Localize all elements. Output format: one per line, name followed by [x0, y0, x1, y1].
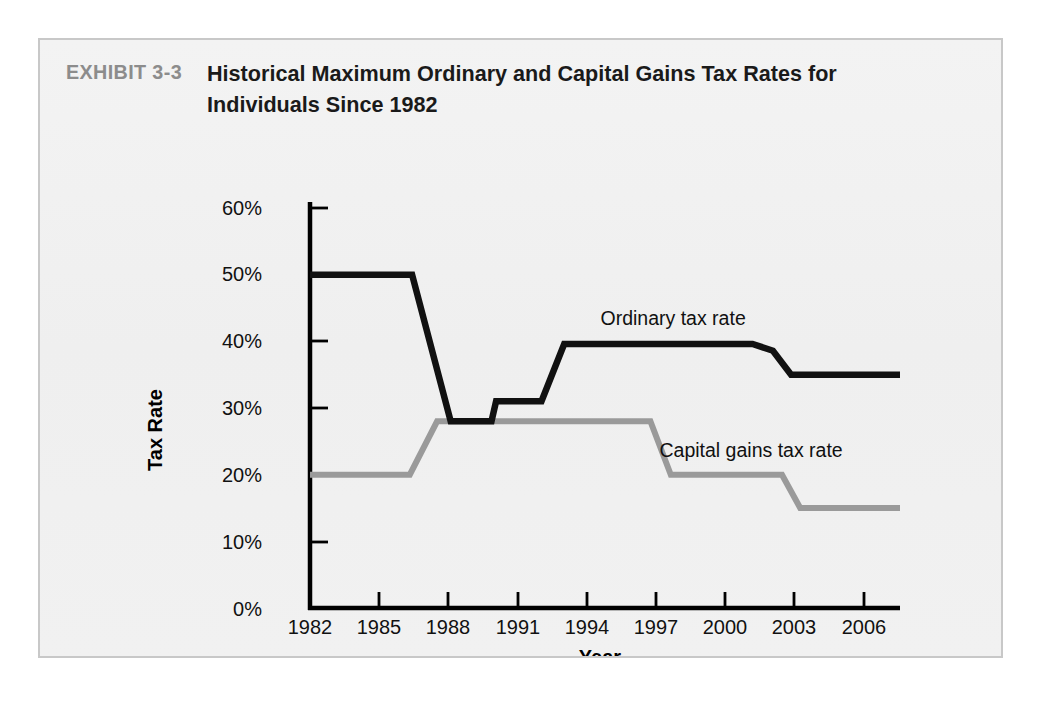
y-tick-label-40: 40% — [222, 330, 262, 352]
x-tick-label-1994: 1994 — [565, 616, 610, 638]
x-axis-ticks — [310, 592, 864, 608]
capital-gains-tax-rate-label: Capital gains tax rate — [660, 439, 843, 461]
y-tick-label-60: 60% — [222, 197, 262, 219]
chart-container: 60% 50% 40% 30% 20% 10% 0% Tax Rate — [40, 140, 1005, 656]
exhibit-frame: EXHIBIT 3-3 Historical Maximum Ordinary … — [38, 38, 1003, 658]
y-tick-label-20: 20% — [222, 464, 262, 486]
y-axis-tick-labels: 60% 50% 40% 30% 20% 10% 0% — [222, 197, 262, 620]
ordinary-tax-rate-line — [310, 275, 900, 422]
x-axis-tick-labels: 1982 1985 1988 1991 1994 1997 2000 2003 … — [288, 616, 887, 638]
y-axis-title: Tax Rate — [144, 389, 166, 471]
y-axis-ticks — [310, 208, 328, 542]
y-tick-label-10: 10% — [222, 531, 262, 553]
y-tick-label-0: 0% — [233, 598, 262, 620]
x-tick-label-1985: 1985 — [357, 616, 402, 638]
x-tick-label-2003: 2003 — [772, 616, 817, 638]
x-tick-label-1991: 1991 — [496, 616, 541, 638]
exhibit-header: EXHIBIT 3-3 Historical Maximum Ordinary … — [66, 58, 971, 120]
x-tick-label-1988: 1988 — [426, 616, 471, 638]
axis-lines — [308, 202, 900, 610]
exhibit-number: EXHIBIT 3-3 — [66, 58, 182, 84]
tax-rate-line-chart: 60% 50% 40% 30% 20% 10% 0% Tax Rate — [40, 140, 1005, 656]
x-axis-title: Year — [579, 646, 621, 656]
x-tick-label-1982: 1982 — [288, 616, 333, 638]
x-tick-label-2000: 2000 — [703, 616, 748, 638]
capital-gains-tax-rate-line — [310, 421, 900, 508]
exhibit-page: EXHIBIT 3-3 Historical Maximum Ordinary … — [0, 0, 1045, 703]
y-tick-label-50: 50% — [222, 263, 262, 285]
ordinary-tax-rate-label: Ordinary tax rate — [601, 307, 746, 329]
x-tick-label-1997: 1997 — [634, 616, 679, 638]
y-tick-label-30: 30% — [222, 397, 262, 419]
x-tick-label-2006: 2006 — [842, 616, 887, 638]
exhibit-title: Historical Maximum Ordinary and Capital … — [207, 58, 879, 120]
